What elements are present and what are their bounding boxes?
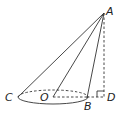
label-A: A — [105, 5, 114, 18]
segment-AB — [87, 13, 104, 98]
base-ellipse-back — [18, 90, 88, 97]
label-D: D — [107, 91, 115, 104]
label-O: O — [40, 91, 49, 104]
label-C: C — [5, 91, 13, 104]
label-B: B — [84, 100, 92, 113]
base-ellipse-front — [18, 97, 88, 104]
right-angle-marker — [97, 91, 104, 97]
oblique-cone-diagram: A C O B D — [0, 0, 121, 114]
